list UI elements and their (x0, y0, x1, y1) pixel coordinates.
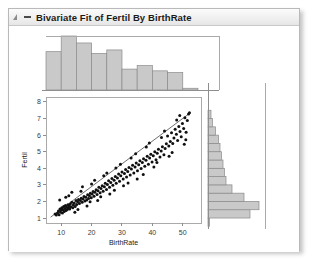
svg-text:5: 5 (37, 148, 41, 155)
svg-text:20: 20 (88, 229, 96, 236)
x-histogram (46, 36, 198, 90)
y-axis-title: Fertil (21, 152, 28, 168)
svg-text:1: 1 (37, 215, 41, 222)
svg-text:2: 2 (37, 198, 41, 205)
y-axis: 12345678 (37, 98, 46, 221)
svg-text:8: 8 (37, 98, 41, 105)
svg-text:7: 7 (37, 115, 41, 122)
y-histogram (208, 110, 259, 226)
x-axis-title: BirthRate (109, 239, 138, 246)
svg-text:10: 10 (57, 229, 65, 236)
screenshot-root: Bivariate Fit of Fertil By BirthRate 123… (0, 0, 318, 266)
page-title: Bivariate Fit of Fertil By BirthRate (36, 9, 192, 26)
svg-text:30: 30 (118, 229, 126, 236)
bivariate-fit-report-panel: Bivariate Fit of Fertil By BirthRate 123… (8, 8, 300, 251)
bivariate-plot[interactable]: 123456781020304050BirthRateFertil (9, 26, 301, 252)
svg-text:3: 3 (37, 181, 41, 188)
svg-text:50: 50 (179, 229, 187, 236)
svg-text:6: 6 (37, 132, 41, 139)
svg-text:4: 4 (37, 165, 41, 172)
plot-canvas: 123456781020304050BirthRateFertil (9, 26, 301, 252)
svg-text:40: 40 (148, 229, 156, 236)
minus-icon[interactable] (22, 12, 33, 23)
report-title-bar[interactable]: Bivariate Fit of Fertil By BirthRate (9, 9, 299, 26)
triangle-right-icon[interactable] (12, 9, 21, 26)
report-body: 123456781020304050BirthRateFertil (9, 26, 299, 252)
x-axis: 1020304050 (57, 223, 186, 236)
